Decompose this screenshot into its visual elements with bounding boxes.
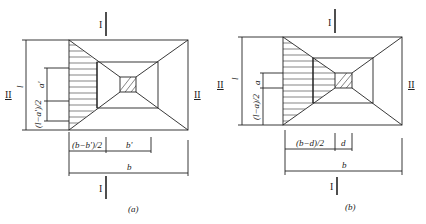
column-a (120, 77, 136, 92)
column-b (335, 73, 352, 88)
section-label-right-a: II (194, 89, 201, 100)
dim-a-a: a' (36, 81, 46, 89)
column-hatch-b (331, 69, 362, 92)
dim-bb2-b: (b−d)/2 (296, 138, 325, 148)
section-label-right-b: II (408, 79, 415, 90)
section-label-bottom-b: I (330, 181, 333, 192)
section-label-left-a: II (5, 89, 12, 100)
dim-bb2-a: (b−b')/2 (72, 140, 102, 150)
foundation-diagram: I I II II l a' (l−a')/2 (b−b')/2 b' b (a… (0, 0, 426, 224)
dim-la2-a: (l−a')/2 (33, 100, 43, 128)
dim-la2-b: (l−a)/2 (251, 93, 261, 120)
dim-bp-b: d (341, 138, 346, 148)
dim-bp-a: b' (126, 140, 134, 150)
dim-b-b: b (342, 160, 347, 170)
dim-b-a: b (127, 162, 132, 172)
column-hatch-a (116, 73, 146, 96)
section-label-left-b: II (217, 79, 224, 90)
dim-a-b: a (252, 80, 262, 85)
figure-a: I I II II l a' (l−a')/2 (b−b')/2 b' b (a… (5, 12, 201, 214)
section-label-top-a: I (99, 19, 102, 30)
hatch-area-b (280, 43, 340, 121)
dim-l-a: l (15, 85, 25, 88)
figure-b: I I II II l a (l−a)/2 (b−d)/2 d b (b) (217, 9, 415, 212)
section-label-top-b: I (328, 17, 331, 28)
dim-l-b: l (230, 77, 240, 80)
caption-a: (a) (128, 204, 139, 214)
caption-b: (b) (345, 202, 356, 212)
section-label-bottom-a: I (99, 183, 102, 194)
hatch-area-a (60, 45, 110, 123)
